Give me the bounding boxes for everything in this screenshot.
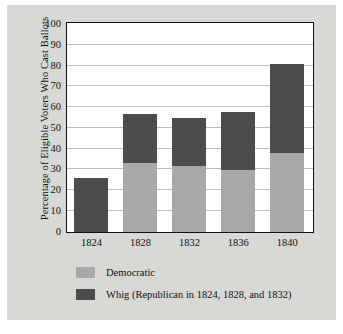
bar-group: 1832 — [172, 24, 206, 232]
bar-segment — [221, 112, 255, 170]
y-axis-tick-label: 80 — [51, 59, 62, 70]
y-axis-tick-label: 20 — [51, 184, 62, 195]
y-axis-tick-label: 0 — [56, 225, 61, 236]
legend-swatch — [76, 289, 95, 300]
bar-group: 1824 — [74, 24, 108, 232]
y-axis-tick-label: 40 — [51, 142, 62, 153]
y-axis-tick-label: 90 — [51, 38, 62, 49]
y-axis-tick-label: 50 — [51, 121, 62, 132]
y-axis-tick-label: 70 — [51, 80, 62, 91]
y-axis-label: Percentage of Eligible Voters Who Cast B… — [39, 12, 50, 226]
plot-inner: 0102030405060708090100182418281832183618… — [67, 23, 313, 232]
y-axis-tick-label: 10 — [51, 205, 62, 216]
legend-item: Democratic — [76, 261, 291, 283]
bar-group: 1836 — [221, 24, 255, 232]
bar-segment — [172, 166, 206, 232]
chart-figure: Percentage of Eligible Voters Who Cast B… — [7, 5, 336, 320]
y-axis-tick-label: 100 — [45, 18, 61, 29]
legend-swatch — [76, 267, 95, 278]
x-axis-tick-label: 1840 — [252, 237, 322, 248]
y-axis-tick-label: 30 — [51, 163, 62, 174]
bar-segment — [172, 118, 206, 166]
plot-area: 0102030405060708090100182418281832183618… — [66, 22, 314, 233]
chart-legend: DemocraticWhig (Republican in 1824, 1828… — [76, 261, 291, 305]
bar-segment — [123, 114, 157, 164]
bar-segment — [74, 178, 108, 232]
legend-label: Whig (Republican in 1824, 1828, and 1832… — [106, 289, 291, 300]
bar-segment — [270, 153, 304, 232]
bar-group: 1828 — [123, 24, 157, 232]
legend-item: Whig (Republican in 1824, 1828, and 1832… — [76, 283, 291, 305]
bar-segment — [123, 163, 157, 232]
bar-segment — [221, 170, 255, 232]
bar-group: 1840 — [270, 24, 304, 232]
bar-segment — [270, 64, 304, 153]
legend-label: Democratic — [106, 267, 155, 278]
y-axis-tick-label: 60 — [51, 101, 62, 112]
